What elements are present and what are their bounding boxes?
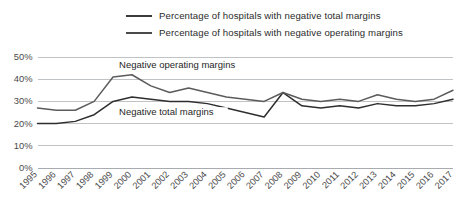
y-tick-label-30: 30% (14, 95, 33, 106)
x-tick-label-2010: 2010 (301, 169, 323, 191)
x-tick-label-2005: 2005 (206, 169, 228, 191)
y-tick-label-10: 10% (14, 140, 33, 151)
x-tick-label-2017: 2017 (433, 169, 455, 191)
x-tick-label-2000: 2000 (112, 169, 134, 191)
x-axis-tick-labels: 1995199619971998199920002001200220032004… (17, 169, 454, 191)
y-tick-label-50: 50% (14, 51, 33, 62)
y-axis-tick-labels: 0%10%20%30%40%50% (14, 51, 33, 173)
x-tick-label-2001: 2001 (131, 169, 153, 191)
series-layer (38, 75, 454, 124)
x-tick-label-2011: 2011 (320, 169, 341, 190)
chart-container: Percentage of hospitals with negative to… (0, 0, 461, 204)
y-tick-label-20: 20% (14, 118, 33, 129)
x-tick-label-2013: 2013 (357, 169, 379, 191)
x-tick-label-2007: 2007 (244, 169, 266, 191)
x-tick-label-2012: 2012 (338, 169, 360, 191)
x-tick-label-2003: 2003 (168, 169, 190, 191)
annotation-label-0: Negative operating margins (119, 59, 235, 70)
x-tick-label-1996: 1996 (36, 169, 58, 191)
annotation-label-1: Negative total margins (119, 106, 214, 117)
x-tick-label-2016: 2016 (414, 169, 436, 191)
x-tick-label-2008: 2008 (263, 169, 285, 191)
y-tick-label-40: 40% (14, 73, 33, 84)
annotation-layer: Negative operating marginsNegative total… (117, 59, 247, 118)
x-tick-label-1999: 1999 (93, 169, 115, 191)
x-tick-label-2009: 2009 (282, 169, 304, 191)
x-tick-label-2004: 2004 (187, 169, 209, 191)
x-tick-label-1998: 1998 (74, 169, 96, 191)
x-tick-label-2014: 2014 (376, 169, 398, 191)
x-tick-label-2002: 2002 (150, 169, 172, 191)
x-tick-label-2006: 2006 (225, 169, 247, 191)
x-tick-label-2015: 2015 (395, 169, 417, 191)
x-tick-label-1997: 1997 (55, 169, 77, 191)
chart-plot-area: 0%10%20%30%40%50% Negative operating mar… (0, 0, 461, 204)
